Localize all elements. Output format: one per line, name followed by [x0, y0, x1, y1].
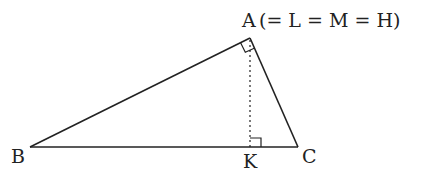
segment-ab: [30, 38, 250, 147]
label-c: C: [302, 145, 317, 167]
label-a: A: [241, 9, 256, 31]
segment-ac: [250, 38, 298, 147]
label-k: K: [243, 150, 258, 172]
label-b: B: [11, 145, 25, 167]
triangle-diagram: A (= L = M = H) B C K: [0, 0, 426, 189]
label-a-note: (= L = M = H): [259, 9, 400, 31]
right-angle-mark-k: [250, 138, 261, 147]
